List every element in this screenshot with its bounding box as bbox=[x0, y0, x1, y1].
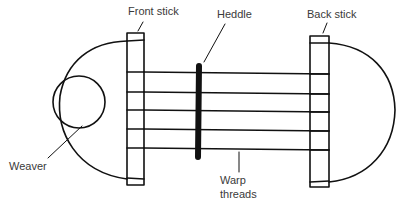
back-strap-left bbox=[60, 41, 127, 179]
warp-loop-right bbox=[329, 43, 395, 182]
label-warp: Warp bbox=[220, 174, 246, 187]
back-stick bbox=[310, 36, 329, 187]
label-front-stick: Front stick bbox=[128, 5, 179, 18]
label-weaver: Weaver bbox=[9, 160, 47, 173]
leader-heddle bbox=[204, 24, 225, 62]
loom-diagram: Front stick Heddle Back stick Weaver War… bbox=[0, 0, 400, 208]
label-back-stick: Back stick bbox=[307, 8, 357, 21]
leader-front-stick bbox=[138, 22, 143, 31]
warp-threads bbox=[144, 72, 329, 150]
label-heddle: Heddle bbox=[217, 8, 252, 21]
front-stick bbox=[127, 33, 144, 185]
label-threads: threads bbox=[220, 188, 257, 201]
weaver-body bbox=[53, 76, 105, 128]
leader-back-stick bbox=[323, 23, 327, 33]
heddle bbox=[198, 66, 199, 157]
